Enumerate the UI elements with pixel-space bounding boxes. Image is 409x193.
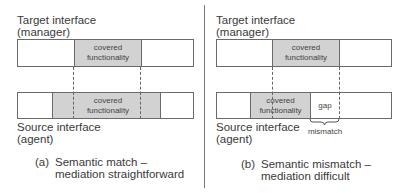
caption-line-2: mediation difficult [261,170,350,182]
mismatch-brace-icon [310,119,339,125]
mismatch-label: mismatch [306,127,344,137]
source-interface-role: (agent) [216,133,252,145]
source-interface-label: Source interface [216,121,300,133]
caption-line-1: Semantic mismatch – [261,158,371,170]
caption-prefix: (b) [241,158,255,170]
